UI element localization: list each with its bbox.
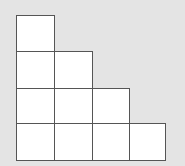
square-cell: [16, 123, 55, 161]
square-cell: [16, 88, 55, 124]
square-cell: [92, 123, 130, 161]
square-cell: [129, 123, 166, 161]
square-cell: [54, 51, 93, 89]
square-cell: [16, 51, 55, 89]
square-cell: [16, 15, 55, 52]
square-cell: [54, 123, 93, 161]
square-cell: [92, 88, 130, 124]
square-cell: [54, 88, 93, 124]
